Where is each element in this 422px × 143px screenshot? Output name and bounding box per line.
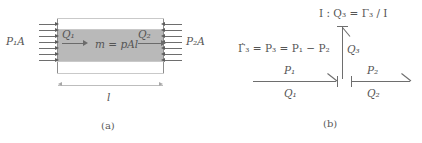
pressure-arrow-left (39, 60, 56, 61)
pressure-arrow-right (165, 60, 182, 61)
length-dimension-arrow-left (58, 82, 62, 86)
length-label: l (107, 92, 110, 103)
length-dimension-arrow-right (159, 82, 163, 86)
flow-in-label: Q₁ (62, 29, 75, 40)
pressure-arrow-right (165, 24, 182, 25)
pressure-arrow-left (39, 30, 56, 31)
momentum-relation: Γ̇₃ = P₃ = P₁ − P₂ (238, 43, 330, 54)
pressure-arrowhead-left (55, 40, 59, 44)
pressure-arrowhead-left (55, 52, 59, 56)
pressure-arrowhead-left (55, 46, 59, 50)
vertical-bond-half-arrow (342, 27, 351, 36)
right-bond-half-arrow (401, 73, 410, 82)
pressure-arrowhead-left (55, 22, 59, 26)
flow-in-arrow-line (62, 43, 84, 44)
length-dimension-line (58, 85, 163, 86)
vertical-bond-flow-label: Q₃ (347, 44, 360, 55)
left-bond-causal-stroke (337, 76, 338, 87)
flow-out-arrow-line (138, 43, 162, 44)
left-bond-line (253, 81, 336, 82)
pressure-arrowhead-right (161, 58, 165, 62)
pressure-arrowhead-right (161, 22, 165, 26)
pressure-arrowhead-left (55, 28, 59, 32)
pressure-arrow-right (165, 30, 182, 31)
pressure-arrow-left (39, 36, 56, 37)
inertance-relation: I : Q₃ = Γ₃ / I (319, 8, 388, 19)
tube-bottom-edge (57, 73, 164, 74)
pressure-arrowhead-right (161, 34, 165, 38)
pressure-arrowhead-right (161, 28, 165, 32)
panel-b-caption: (b) (323, 118, 337, 129)
pressure-arrowhead-right (161, 52, 165, 56)
pressure-arrow-left (39, 54, 56, 55)
panel-a-caption: (a) (101, 120, 115, 131)
pressure-arrow-right (165, 36, 182, 37)
flow-out-arrowhead (161, 40, 166, 46)
pressure-arrow-left (39, 48, 56, 49)
pressure-arrowhead-left (55, 34, 59, 38)
mass-equation: m = pAl (95, 39, 138, 50)
left-bond-flow-label: Q₁ (284, 88, 297, 99)
panel-a: P₁A P₂A Q₁ Q₂ m = pAl l (a) (0, 0, 211, 143)
pressure-arrow-right (165, 48, 182, 49)
panel-b: I : Q₃ = Γ₃ / I Γ̇₃ = P₃ = P₁ − P₂ Q₃ P₁… (211, 0, 422, 143)
left-bond-half-arrow (327, 73, 336, 82)
flow-out-label: Q₂ (138, 29, 151, 40)
right-bond-flow-label: Q₂ (367, 88, 380, 99)
fluid-bottom-edge (57, 61, 164, 62)
flow-in-arrowhead (83, 40, 88, 46)
right-pressure-force-label: P₂A (186, 36, 205, 47)
pressure-arrow-left (39, 42, 56, 43)
left-pressure-force-label: P₁A (6, 36, 25, 47)
right-bond-effort-label: P₂ (367, 65, 378, 76)
pressure-arrow-right (165, 42, 182, 43)
pressure-arrow-left (39, 24, 56, 25)
figure-container: P₁A P₂A Q₁ Q₂ m = pAl l (a) I : Q₃ = Γ₃ … (0, 0, 422, 143)
pressure-arrow-right (165, 54, 182, 55)
left-bond-effort-label: P₁ (284, 65, 295, 76)
pressure-arrowhead-left (55, 58, 59, 62)
tube-top-edge (57, 18, 164, 19)
